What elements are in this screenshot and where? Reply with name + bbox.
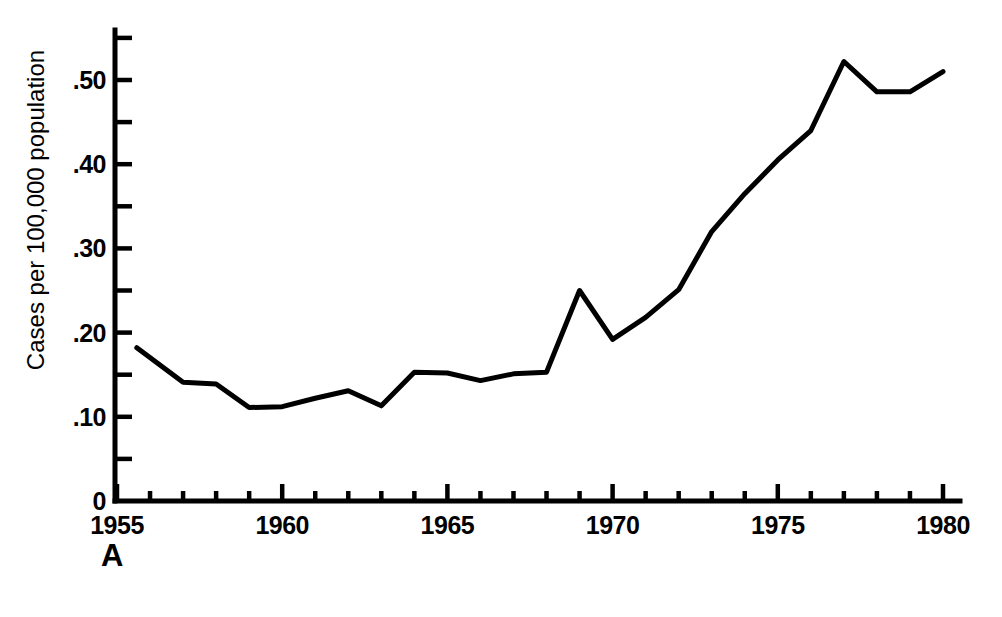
panel-label: A xyxy=(101,540,123,571)
line-chart-plot xyxy=(0,0,1002,617)
figure-panel-a: .50.40.30.20.100 19551960196519701975198… xyxy=(0,0,1002,617)
x-tick-label: 1960 xyxy=(255,513,309,538)
x-tick-label: 1980 xyxy=(916,513,970,538)
axis-lines xyxy=(115,30,960,501)
tick-marks xyxy=(115,38,943,501)
x-tick-label: 1965 xyxy=(421,513,475,538)
y-tick-label: .20 xyxy=(73,320,106,345)
y-tick-label: 0 xyxy=(93,489,106,514)
x-tick-label: 1970 xyxy=(586,513,640,538)
y-tick-label: .30 xyxy=(73,236,106,261)
y-tick-label: .50 xyxy=(73,68,106,93)
x-tick-label: 1955 xyxy=(90,513,144,538)
x-tick-label: 1975 xyxy=(751,513,805,538)
y-tick-label: .10 xyxy=(73,404,106,429)
y-axis-title: Cases per 100,000 population xyxy=(22,0,50,460)
data-line-series xyxy=(137,61,943,407)
y-tick-label: .40 xyxy=(73,152,106,177)
